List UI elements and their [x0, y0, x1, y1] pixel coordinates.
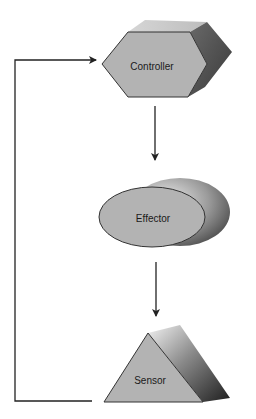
effector-node — [99, 178, 230, 247]
feedback-arrow-sensor-to-controller — [15, 60, 96, 401]
controller-node — [102, 20, 232, 97]
sensor-node — [104, 325, 230, 402]
effector-front-face — [99, 187, 205, 247]
controller-front-face — [102, 32, 207, 97]
feedback-loop-diagram — [0, 0, 256, 419]
